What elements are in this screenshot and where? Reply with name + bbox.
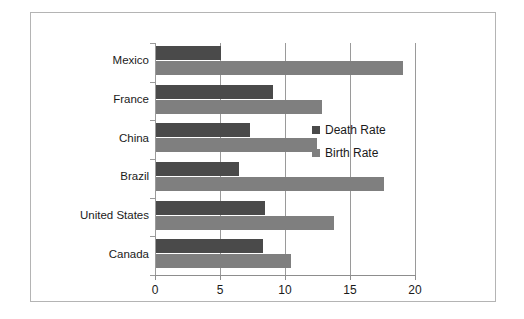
bar-group — [156, 43, 415, 82]
bar — [156, 201, 265, 215]
x-axis-tick-label: 0 — [135, 283, 175, 297]
category-label: United States — [39, 209, 149, 221]
bar — [156, 177, 384, 191]
bar-group — [156, 82, 415, 121]
x-axis-tick — [285, 275, 286, 280]
bar — [156, 138, 317, 152]
legend-swatch-icon — [312, 126, 320, 134]
x-axis-tick-label: 10 — [265, 283, 305, 297]
chart-legend: Death RateBirth Rate — [312, 123, 422, 169]
chart-frame: MexicoFranceChinaBrazilUnited StatesCana… — [30, 12, 496, 302]
bar — [156, 239, 263, 253]
bar — [156, 46, 221, 60]
bar-group — [156, 198, 415, 237]
category-label: Canada — [39, 248, 149, 260]
x-axis-tick — [220, 275, 221, 280]
category-label: Mexico — [39, 54, 149, 66]
category-label: Brazil — [39, 170, 149, 182]
bar — [156, 61, 403, 75]
bar — [156, 123, 250, 137]
bar — [156, 216, 334, 230]
bar — [156, 85, 273, 99]
category-label: France — [39, 93, 149, 105]
category-axis-labels: MexicoFranceChinaBrazilUnited StatesCana… — [31, 43, 149, 275]
x-axis-tick — [350, 275, 351, 280]
x-axis-tick-label: 5 — [200, 283, 240, 297]
bar — [156, 254, 291, 268]
bar-group — [156, 236, 415, 275]
bar — [156, 162, 239, 176]
x-axis-tick — [155, 275, 156, 280]
legend-item[interactable]: Death Rate — [312, 123, 422, 137]
legend-label: Birth Rate — [325, 146, 378, 160]
x-axis-tick-label: 15 — [330, 283, 370, 297]
legend-swatch-icon — [312, 149, 320, 157]
bar — [156, 100, 322, 114]
category-label: China — [39, 132, 149, 144]
x-axis-tick-label: 20 — [395, 283, 435, 297]
x-axis-tick — [415, 275, 416, 280]
legend-item[interactable]: Birth Rate — [312, 146, 422, 160]
legend-label: Death Rate — [325, 123, 386, 137]
